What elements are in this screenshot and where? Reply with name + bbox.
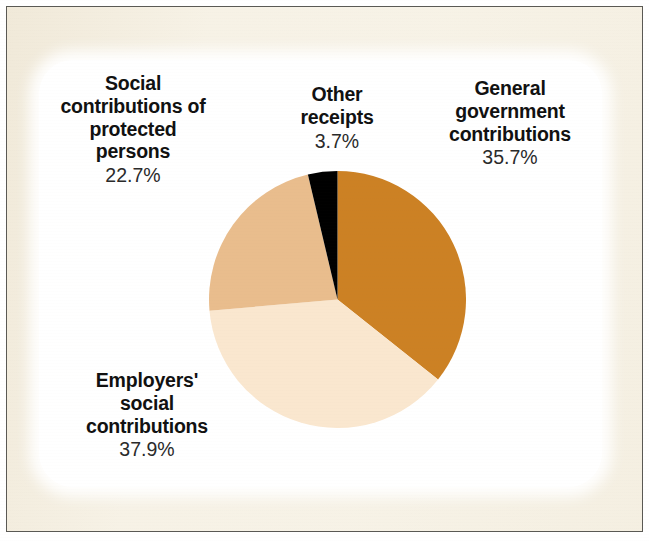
pie-label-other-receipts-line1: Other [262, 83, 412, 106]
pie-label-other-receipts-value: 3.7% [262, 130, 412, 153]
pie-label-other-receipts-line2: receipts [262, 106, 412, 129]
pie-label-employers-social: Employers' social contributions 37.9% [44, 369, 250, 461]
pie-label-protected-persons-line2: contributions of [27, 95, 239, 118]
pie-label-protected-persons-line1: Social [27, 72, 239, 95]
pie-label-general-government-line2: government [412, 100, 608, 123]
figure-page: Social contributions of protected person… [0, 0, 649, 541]
pie-label-protected-persons-line4: persons [27, 140, 239, 163]
pie-label-employers-social-line1: Employers' [44, 369, 250, 392]
pie-label-general-government: General government contributions 35.7% [412, 77, 608, 169]
pie-label-general-government-line3: contributions [412, 123, 608, 146]
pie-label-other-receipts: Other receipts 3.7% [262, 83, 412, 152]
pie-label-employers-social-line2: social [44, 392, 250, 415]
pie-label-employers-social-value: 37.9% [44, 438, 250, 461]
pie-label-protected-persons-value: 22.7% [27, 164, 239, 187]
pie-label-general-government-value: 35.7% [412, 146, 608, 169]
pie-label-protected-persons: Social contributions of protected person… [27, 72, 239, 187]
pie-label-protected-persons-line3: protected [27, 118, 239, 141]
pie-label-general-government-line1: General [412, 77, 608, 100]
pie-label-employers-social-line3: contributions [44, 415, 250, 438]
